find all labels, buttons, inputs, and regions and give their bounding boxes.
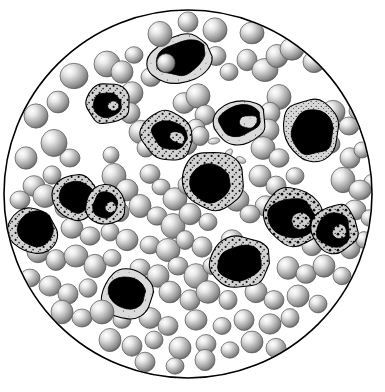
red-blood-cell — [135, 352, 155, 372]
red-blood-cell — [145, 331, 163, 349]
red-blood-cell — [241, 331, 263, 353]
blood-smear-figure: Blood smear microscope field Peripheral … — [0, 0, 385, 392]
red-blood-cell — [79, 279, 97, 298]
red-blood-cell — [159, 281, 181, 303]
red-blood-cell — [192, 237, 212, 257]
red-blood-cell — [176, 231, 194, 250]
red-blood-cell — [116, 229, 138, 250]
red-blood-cell — [111, 61, 133, 83]
red-blood-cell — [185, 310, 207, 330]
red-blood-cell — [219, 290, 237, 309]
red-blood-cell — [203, 18, 227, 42]
red-blood-cell — [72, 309, 92, 327]
red-blood-cell — [191, 126, 209, 145]
red-blood-cell — [221, 342, 239, 358]
red-blood-cell — [277, 257, 299, 280]
red-blood-cell — [220, 63, 238, 80]
red-blood-cell — [47, 91, 69, 113]
white-blood-cell — [209, 236, 269, 287]
red-blood-cell — [196, 281, 220, 304]
red-blood-cell — [264, 291, 284, 310]
red-blood-cell — [15, 147, 37, 169]
red-blood-cell — [199, 213, 217, 230]
wbc-nuclear-notch — [292, 212, 311, 229]
red-blood-cell — [195, 349, 215, 370]
red-blood-cell — [99, 328, 121, 351]
red-blood-cell — [148, 21, 172, 46]
red-blood-cell — [286, 168, 304, 185]
red-blood-cell — [234, 310, 254, 331]
red-blood-cell — [281, 309, 299, 328]
red-blood-cell — [103, 250, 121, 267]
red-blood-cell — [122, 336, 142, 356]
red-blood-cell — [213, 318, 231, 335]
red-blood-cell — [179, 203, 201, 224]
red-blood-cell — [309, 295, 327, 313]
blood-smear-canvas — [0, 0, 385, 392]
red-blood-cell — [166, 358, 184, 374]
red-blood-cell — [41, 129, 67, 156]
red-blood-cell — [259, 314, 281, 334]
red-blood-cell — [80, 227, 100, 245]
red-blood-cell — [103, 147, 119, 163]
red-blood-cell — [178, 12, 198, 32]
white-blood-cell — [86, 84, 129, 124]
red-blood-cell — [46, 250, 66, 271]
red-blood-cell — [157, 54, 175, 73]
red-blood-cell — [158, 317, 178, 336]
red-blood-cell — [333, 267, 351, 284]
red-blood-cell — [269, 149, 289, 168]
red-blood-cell — [10, 191, 30, 209]
red-blood-cell — [60, 63, 88, 88]
red-blood-cell — [169, 337, 191, 359]
red-blood-cell — [349, 180, 371, 200]
white-blood-cell — [86, 184, 125, 224]
red-blood-cell — [125, 47, 143, 64]
red-blood-cell — [24, 104, 48, 128]
wbc-nuclear-notch — [108, 101, 119, 111]
red-blood-cell — [240, 205, 260, 223]
red-blood-cell — [90, 300, 114, 324]
red-blood-cell — [186, 84, 210, 108]
red-blood-cell — [287, 285, 309, 307]
red-blood-cell — [313, 255, 335, 277]
